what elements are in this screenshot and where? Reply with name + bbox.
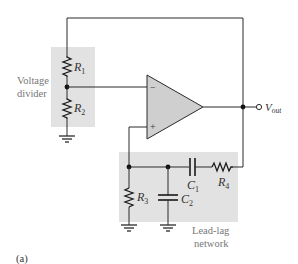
opamp-plus-sign: + bbox=[150, 121, 156, 132]
opamp-minus-sign: − bbox=[150, 82, 156, 93]
voltage-divider-label-line2: divider bbox=[17, 88, 47, 99]
vout-label: Vout bbox=[265, 101, 282, 115]
lead-lag-label-line2: network bbox=[194, 238, 229, 249]
voltage-divider-label-line1: Voltage bbox=[17, 75, 49, 86]
ground-icon bbox=[59, 136, 75, 142]
lead-lag-label-line1: Lead-lag bbox=[192, 225, 230, 236]
circuit-diagram: − + Vout R1 R2 bbox=[0, 0, 298, 264]
figure-caption: (a) bbox=[16, 253, 28, 264]
output-terminal bbox=[256, 104, 261, 109]
ground-icon bbox=[160, 225, 176, 231]
ground-icon bbox=[121, 225, 137, 231]
